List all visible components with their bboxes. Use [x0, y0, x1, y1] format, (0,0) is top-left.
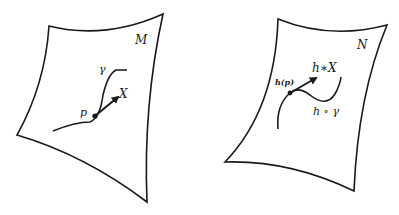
vector-x-arrow	[95, 97, 118, 116]
diagram-canvas	[0, 0, 399, 215]
curve-h-gamma-label: h ∘ γ	[313, 106, 339, 117]
vector-h-star-x-label: h∗X	[312, 62, 336, 74]
curve-gamma-label: γ	[99, 64, 106, 75]
curve-gamma	[53, 70, 127, 131]
manifold-n-label: N	[357, 39, 368, 51]
point-p-label: p	[80, 107, 87, 118]
vector-x-label: X	[119, 88, 128, 100]
manifold-m-label: M	[135, 34, 147, 46]
point-h-p-label: h(p)	[275, 78, 294, 86]
